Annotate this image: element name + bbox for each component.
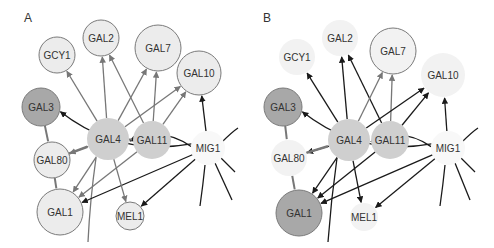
node-label: GAL7 — [380, 46, 406, 57]
node-gal7: GAL7 — [370, 28, 416, 74]
node-label: GAL80 — [36, 155, 68, 166]
node-gal11: GAL11 — [133, 121, 171, 159]
edge-gal11-to-gal7 — [391, 75, 393, 121]
node-gal4: GAL4 — [87, 118, 129, 160]
edge-gal4-to-gcy1 — [67, 71, 97, 121]
edge-gal80-to-gal4 — [69, 147, 88, 154]
node-mig1: MIG1 — [431, 131, 465, 165]
node-label: GAL11 — [375, 135, 406, 146]
edge-mig1-to-gal1 — [321, 155, 432, 204]
edge-stub — [462, 128, 478, 142]
node-gal11: GAL11 — [371, 121, 409, 159]
node-label: MEL1 — [117, 211, 144, 222]
node-label: MIG1 — [436, 143, 461, 154]
edge-gal80-to-gal1 — [55, 178, 57, 188]
edge-stub — [222, 128, 238, 142]
node-label: GAL11 — [137, 135, 168, 146]
edge-stub — [200, 165, 205, 206]
node-gal4: GAL4 — [328, 119, 370, 161]
edge-gal4-to-gal7 — [358, 73, 382, 122]
node-label: GAL2 — [88, 33, 114, 44]
node-gal3: GAL3 — [22, 88, 60, 126]
edge-gal4-to-gal2 — [102, 57, 106, 118]
node-gcy1: GCY1 — [39, 37, 75, 73]
node-label: GAL4 — [95, 134, 121, 145]
node-label: GAL3 — [270, 102, 296, 113]
edge-gal11-to-gal7 — [153, 72, 156, 121]
edge-gal3-to-gal80 — [45, 126, 48, 142]
node-label: GAL4 — [336, 135, 362, 146]
node-gal2: GAL2 — [83, 20, 119, 56]
nodes-a: GCY1GAL2GAL7GAL10GAL3GAL4GAL11GAL80MIG1G… — [22, 20, 225, 235]
node-label: GAL1 — [286, 208, 312, 219]
edge-gal80-to-gal4 — [306, 146, 328, 153]
edge-gal11-to-gal2 — [109, 55, 143, 123]
edge-mig1-to-gal1 — [82, 155, 192, 203]
node-gcy1: GCY1 — [279, 39, 315, 75]
panel-label-a: A — [24, 11, 32, 25]
edge-mig1-to-gal10 — [445, 98, 447, 131]
node-mel1: MEL1 — [350, 203, 378, 231]
edge-stub — [455, 163, 470, 200]
node-gal10: GAL10 — [421, 53, 465, 97]
edge-gal4-to-gal2 — [342, 57, 347, 119]
node-mel1: MEL1 — [116, 202, 144, 230]
node-label: MEL1 — [351, 212, 378, 223]
gene-network-figure: A GCY1GAL2GAL7GAL10GAL3GAL4GAL11GAL80MIG… — [0, 0, 494, 248]
panel-a: A GCY1GAL2GAL7GAL10GAL3GAL4GAL11GAL80MIG… — [22, 11, 238, 242]
node-gal10: GAL10 — [177, 51, 221, 95]
node-label: GAL80 — [273, 153, 305, 164]
node-label: MIG1 — [196, 143, 221, 154]
edge-stub — [215, 163, 232, 200]
edge-mig1-to-gal10 — [202, 96, 206, 131]
node-gal3: GAL3 — [264, 88, 302, 126]
edge-gal4-to-gal7 — [118, 69, 146, 121]
node-label: GCY1 — [283, 52, 311, 63]
node-label: GAL2 — [327, 33, 353, 44]
nodes-b: GCY1GAL2GAL7GAL10GAL3GAL4GAL11GAL80MIG1G… — [264, 20, 465, 236]
panel-label-b: B — [263, 11, 271, 25]
edge-gal80-to-gal1 — [292, 176, 294, 190]
node-label: GAL1 — [47, 207, 73, 218]
node-label: GAL7 — [145, 43, 171, 54]
node-gal1: GAL1 — [37, 189, 83, 235]
edge-gal4-to-gcy1 — [307, 73, 338, 122]
node-gal80: GAL80 — [271, 140, 307, 176]
node-label: GAL10 — [427, 70, 459, 81]
edge-stub — [440, 165, 445, 206]
node-gal7: GAL7 — [135, 25, 181, 71]
node-label: GAL10 — [183, 68, 215, 79]
edge-mig1-to-mel1 — [141, 159, 195, 206]
node-mig1: MIG1 — [191, 131, 225, 165]
edge-gal11-to-gal10 — [402, 93, 428, 125]
node-gal2: GAL2 — [322, 20, 358, 56]
edge-stub — [220, 157, 235, 172]
node-gal80: GAL80 — [34, 142, 70, 178]
node-label: GAL3 — [28, 102, 54, 113]
panel-b: B GCY1GAL2GAL7GAL10GAL3GAL4GAL11GAL80MIG… — [263, 11, 478, 242]
node-gal1: GAL1 — [276, 190, 322, 236]
node-label: GCY1 — [43, 50, 71, 61]
edge-stub — [460, 157, 475, 172]
edge-gal3-to-gal80 — [285, 126, 287, 139]
